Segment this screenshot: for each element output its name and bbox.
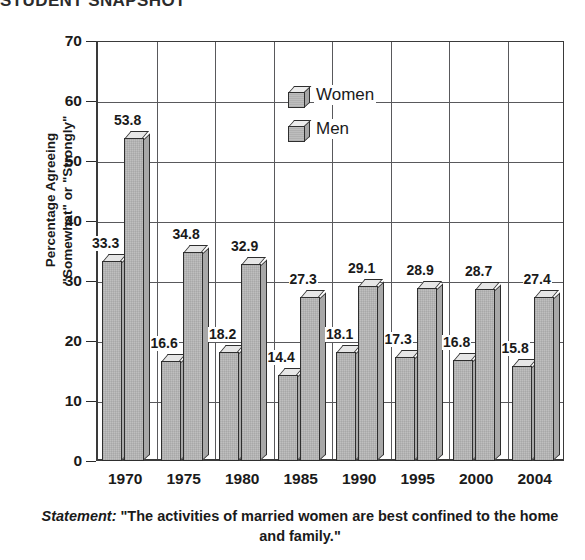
bar-men-2004 xyxy=(534,297,554,461)
bar-men-1970 xyxy=(124,138,144,461)
bar-value-label: 33.3 xyxy=(91,236,120,251)
legend-item-men: Men xyxy=(288,112,376,146)
y-axis-tick xyxy=(86,221,96,222)
bar-value-label: 29.1 xyxy=(347,261,376,276)
bar-value-label: 28.7 xyxy=(464,264,493,279)
bar-value-label: 16.8 xyxy=(442,335,471,350)
chart-caption: Statement: "The activities of married wo… xyxy=(40,506,560,546)
bar-men-1995 xyxy=(417,288,437,461)
y-axis-tick-label: 0 xyxy=(44,453,82,469)
caption-text: "The activities of married women are bes… xyxy=(121,508,559,544)
bar-value-label: 15.8 xyxy=(501,341,530,356)
gridline-vertical xyxy=(449,42,450,459)
bar-side-face xyxy=(144,134,150,460)
bar-value-label: 18.1 xyxy=(325,327,354,342)
bar-value-label: 17.3 xyxy=(384,332,413,347)
y-axis-tick-label: 70 xyxy=(44,33,82,49)
bar-side-face xyxy=(203,248,209,460)
chart-title-clip: STUDENT SNAPSHOT xyxy=(0,0,585,13)
bar-women-2000 xyxy=(453,360,473,461)
bar-side-face xyxy=(378,282,384,460)
y-axis-tick-label: 60 xyxy=(44,93,82,109)
bar-women-1975 xyxy=(161,361,181,461)
gridline-vertical xyxy=(157,42,158,459)
y-axis-tick-label: 50 xyxy=(44,153,82,169)
y-axis-tick xyxy=(86,101,96,102)
bar-women-2004 xyxy=(512,366,532,461)
bar-men-1985 xyxy=(300,297,320,461)
bar-men-2000 xyxy=(475,289,495,461)
legend-item-women: Women xyxy=(288,78,376,112)
gridline-horizontal xyxy=(98,162,563,163)
y-axis-tick xyxy=(86,401,96,402)
gridline-horizontal xyxy=(98,222,563,223)
bar-men-1980 xyxy=(241,264,261,461)
bar-women-1980 xyxy=(219,352,239,461)
bar-value-label: 18.2 xyxy=(208,327,237,342)
caption-lead: Statement: xyxy=(42,508,117,524)
gridline-vertical xyxy=(391,42,392,459)
bar-value-label: 34.8 xyxy=(172,227,201,242)
y-axis-tick xyxy=(86,41,96,42)
chart-legend: Women Men xyxy=(288,78,376,146)
x-axis-tick-label: 2004 xyxy=(500,470,570,488)
bar-value-label: 27.3 xyxy=(289,272,318,287)
bar-women-1970 xyxy=(102,261,122,461)
bar-value-label: 16.6 xyxy=(150,336,179,351)
bar-value-label: 28.9 xyxy=(406,263,435,278)
y-axis-tick-label: 20 xyxy=(44,333,82,349)
page-title: STUDENT SNAPSHOT xyxy=(0,0,585,11)
bar-value-label: 53.8 xyxy=(113,113,142,128)
chart-root: STUDENT SNAPSHOT Percentage Agreeing "So… xyxy=(0,0,585,560)
bar-women-1990 xyxy=(336,352,356,461)
bar-side-face xyxy=(437,283,443,460)
bar-side-face xyxy=(554,292,560,460)
bar-side-face xyxy=(495,284,501,460)
y-axis-tick-label: 40 xyxy=(44,213,82,229)
y-axis-tick xyxy=(86,341,96,342)
gridline-vertical xyxy=(215,42,216,459)
bar-men-1975 xyxy=(183,252,203,461)
legend-label-men: Men xyxy=(314,119,351,139)
bar-women-1985 xyxy=(278,375,298,461)
bar-value-label: 27.4 xyxy=(523,272,552,287)
bar-women-1995 xyxy=(395,357,415,461)
gridline-vertical xyxy=(274,42,275,459)
bar-value-label: 32.9 xyxy=(230,239,259,254)
cube-icon xyxy=(288,120,310,142)
cube-icon xyxy=(288,86,310,108)
bar-value-label: 14.4 xyxy=(267,350,296,365)
legend-label-women: Women xyxy=(314,85,376,105)
y-axis-tick xyxy=(86,281,96,282)
gridline-vertical xyxy=(508,42,509,459)
y-axis-tick xyxy=(86,461,96,462)
bar-men-1990 xyxy=(358,286,378,461)
y-axis-tick-label: 10 xyxy=(44,393,82,409)
y-axis-tick-label: 30 xyxy=(44,273,82,289)
y-axis-tick xyxy=(86,161,96,162)
bar-side-face xyxy=(320,293,326,460)
